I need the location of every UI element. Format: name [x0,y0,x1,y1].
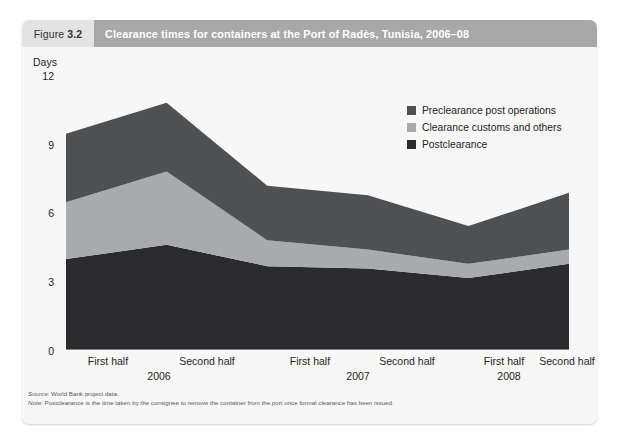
legend-swatch-icon [407,123,416,132]
plot-region: Days 12 9 6 3 0 Preclearance post operat… [22,47,597,424]
x-label-half-1: First half [88,355,128,367]
legend-label: Clearance customs and others [422,122,562,133]
footnote-note: Note: Postclearance is the time taken by… [28,398,594,407]
figure-footnotes: Source: World Bank project data. Note: P… [28,389,594,408]
x-label-year-2007: 2007 [346,370,369,382]
footnote-note-text: Postclearance is the time taken by the c… [43,399,394,406]
legend-label: Postclearance [422,139,487,150]
figure-number-word: Figure [34,28,64,40]
footnote-source-key: Source: [28,390,49,397]
legend-item-postclearance: Postclearance [407,139,562,150]
footnote-note-key: Note: [28,399,43,406]
stacked-area-chart [22,47,597,424]
footnote-source: Source: World Bank project data. [28,389,594,398]
x-label-year-2008: 2008 [497,370,520,382]
figure-title-text: Clearance times for containers at the Po… [105,28,469,40]
x-label-half-5: First half [484,355,524,367]
footnote-source-text: World Bank project data. [49,390,118,397]
legend-item-preclearance: Preclearance post operations [407,105,562,116]
legend-swatch-icon [407,106,416,115]
x-label-half-2: Second half [179,355,234,367]
figure-header: Figure3.2 Clearance times for containers… [22,20,597,47]
figure-title: Clearance times for containers at the Po… [94,20,597,47]
figure-number: Figure3.2 [22,20,94,47]
figure-card: Figure3.2 Clearance times for containers… [22,20,597,424]
x-label-half-6: Second half [539,355,594,367]
legend-item-clearance-customs: Clearance customs and others [407,122,562,133]
legend-label: Preclearance post operations [422,105,556,116]
figure-number-value: 3.2 [67,28,82,40]
x-label-half-3: First half [290,355,330,367]
x-label-year-2006: 2006 [147,370,170,382]
legend-swatch-icon [407,140,416,149]
chart-legend: Preclearance post operations Clearance c… [407,105,562,156]
x-label-half-4: Second half [379,355,434,367]
